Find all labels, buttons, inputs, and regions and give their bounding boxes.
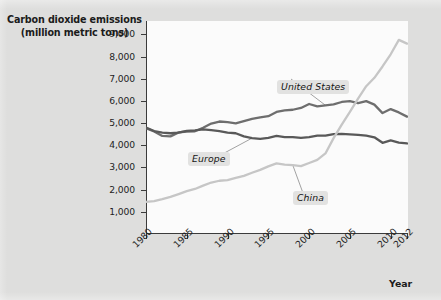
y-axis-tick-mark — [141, 79, 146, 80]
y-axis-tick-label: 2,000 — [93, 184, 135, 195]
y-axis-tick-mark — [141, 145, 146, 146]
series-line-europe — [146, 128, 407, 144]
series-line-china — [146, 40, 407, 202]
y-axis-tick-label: 8,000 — [93, 51, 135, 62]
y-axis-tick-label: 1,000 — [93, 206, 135, 217]
x-axis-title: Year — [389, 278, 412, 289]
y-axis-tick-label: 3,000 — [93, 161, 135, 172]
y-axis-tick-mark — [141, 57, 146, 58]
y-axis-tick-mark — [141, 101, 146, 102]
y-axis-tick-label: 5,000 — [93, 117, 135, 128]
plot-lines — [146, 21, 408, 234]
chart-title-line-1: Carbon dioxide emissions — [7, 14, 142, 25]
y-axis-tick-mark — [141, 190, 146, 191]
chart-figure: Carbon dioxide emissions (million metric… — [0, 0, 441, 300]
y-axis-tick-mark — [141, 123, 146, 124]
series-label-united-states: United States — [277, 80, 349, 94]
y-axis-tick-mark — [141, 212, 146, 213]
x-axis-tick-label: 1980 — [130, 226, 154, 250]
series-label-china: China — [293, 191, 328, 205]
y-axis-tick-label: 9,000 — [93, 28, 135, 39]
series-label-europe: Europe — [188, 152, 230, 166]
y-axis-tick-label: 7,000 — [93, 73, 135, 84]
y-axis-tick-mark — [141, 34, 146, 35]
y-axis-tick-label: 6,000 — [93, 95, 135, 106]
y-axis-tick-mark — [141, 167, 146, 168]
y-axis-tick-label: 4,000 — [93, 139, 135, 150]
